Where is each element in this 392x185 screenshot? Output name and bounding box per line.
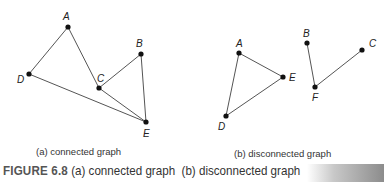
disconnected-node-label-E: E <box>289 72 296 83</box>
disconnected-node-label-B: B <box>303 28 310 39</box>
disconnected-node-label-C: C <box>369 38 377 49</box>
connected-node-label-D: D <box>17 74 24 85</box>
disconnected-node-label-A: A <box>235 38 243 49</box>
disconnected-edge-B-F <box>307 43 315 87</box>
connected-node-label-B: B <box>136 38 143 49</box>
connected-node-label-C: C <box>97 73 105 84</box>
disconnected-graph-nodes: AEDBFC <box>218 28 377 132</box>
connected-edge-C-E <box>99 88 146 122</box>
disconnected-node-A <box>236 50 241 55</box>
disconnected-node-label-F: F <box>312 92 319 103</box>
disconnected-node-B <box>304 40 309 45</box>
disconnected-node-F <box>312 84 317 89</box>
subcaption-disconnected: (b) disconnected graph <box>234 148 331 159</box>
disconnected-node-D <box>223 113 228 118</box>
subcaption-connected: (a) connected graph <box>36 146 121 157</box>
connected-node-B <box>138 51 143 56</box>
connected-edge-D-E <box>29 74 146 122</box>
disconnected-node-label-D: D <box>218 121 225 132</box>
graph-diagram: ABCDE AEDBFC <box>0 0 392 160</box>
disconnected-node-E <box>280 74 285 79</box>
disconnected-edge-D-E <box>226 77 283 116</box>
disconnected-edge-F-C <box>315 50 362 87</box>
disconnected-edge-A-E <box>239 53 283 77</box>
connected-graph-edges <box>29 27 146 122</box>
connected-edge-C-B <box>99 54 141 88</box>
connected-node-E <box>143 119 148 124</box>
disconnected-edge-A-D <box>226 53 239 116</box>
decorative-gradient-bar <box>307 164 384 182</box>
figure-caption-text: (a) connected graph (b) disconnected gra… <box>68 163 300 178</box>
connected-node-A <box>65 24 70 29</box>
connected-edge-A-C <box>68 27 99 88</box>
figure-caption: FIGURE 6.8 (a) connected graph (b) disco… <box>3 163 300 178</box>
disconnected-node-C <box>359 47 364 52</box>
connected-edge-B-E <box>141 54 146 122</box>
connected-node-C <box>96 85 101 90</box>
connected-node-D <box>26 71 31 76</box>
connected-node-label-A: A <box>62 11 70 22</box>
connected-edge-A-D <box>29 27 68 74</box>
connected-graph-nodes: ABCDE <box>17 11 150 139</box>
connected-node-label-E: E <box>143 128 150 139</box>
figure-label: FIGURE 6.8 <box>3 163 68 178</box>
